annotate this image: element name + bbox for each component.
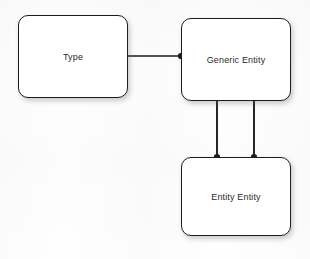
node-entity-entity-label: Entity Entity: [211, 192, 260, 202]
node-type-label: Type: [63, 52, 83, 62]
node-type[interactable]: Type: [18, 15, 128, 98]
node-entity-entity[interactable]: Entity Entity: [181, 157, 291, 236]
diagram-canvas: Type Generic Entity Entity Entity: [0, 0, 310, 259]
node-generic-entity-label: Generic Entity: [207, 55, 266, 65]
node-generic-entity[interactable]: Generic Entity: [181, 18, 291, 101]
